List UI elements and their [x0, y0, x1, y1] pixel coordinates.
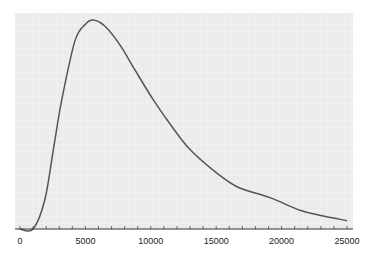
x-tick-label: 5000: [75, 236, 95, 246]
x-tick-label: 10000: [138, 236, 163, 246]
chart: 0500010000150002000025000: [0, 0, 374, 262]
x-tick-label: 25000: [334, 236, 359, 246]
x-tick-label: 15000: [204, 236, 229, 246]
x-tick-label: 0: [17, 236, 22, 246]
x-tick-label: 20000: [269, 236, 294, 246]
x-axis-tick-labels: 0500010000150002000025000: [17, 236, 359, 246]
